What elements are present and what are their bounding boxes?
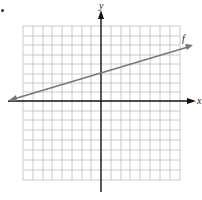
x-axis-label: x	[197, 95, 201, 106]
coordinate-plane	[0, 0, 202, 200]
x-axis	[8, 98, 196, 104]
y-axis-label: y	[99, 0, 103, 11]
function-f-label: f	[182, 33, 185, 44]
